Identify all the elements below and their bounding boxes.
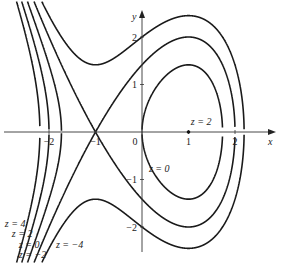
- contour-level-label: z = 2: [190, 116, 212, 127]
- axes: xy−2−101221−1−2: [4, 10, 276, 252]
- x-axis-arrow-icon: [268, 129, 276, 135]
- contour-plot-svg: xy−2−101221−1−2 z = 2z = 0z = 4z = 2z = …: [0, 0, 283, 268]
- x-axis-label: x: [267, 136, 273, 147]
- x-tick-label: 0: [133, 136, 138, 147]
- y-axis-label: y: [131, 11, 137, 22]
- x-tick-label: 1: [186, 136, 191, 147]
- y-tick-label: 2: [132, 32, 137, 43]
- x-tick-label: −1: [90, 136, 101, 147]
- contour-level-label: z = 2: [11, 228, 33, 239]
- contour-level-label: z = −2: [18, 249, 46, 260]
- y-tick-label: −2: [126, 222, 137, 233]
- y-tick-label: 1: [132, 79, 137, 90]
- y-tick-label: −1: [126, 174, 137, 185]
- x-tick-label: −2: [44, 136, 55, 147]
- y-axis-arrow-icon: [139, 10, 145, 18]
- contour-line: [22, 2, 49, 130]
- max-point-marker: [187, 130, 191, 134]
- x-tick-label: 2: [233, 136, 238, 147]
- contour-level-label: z = −4: [55, 239, 83, 250]
- contour-level-label: z = 0: [148, 163, 170, 174]
- contour-plot: xy−2−101221−1−2 z = 2z = 0z = 4z = 2z = …: [0, 0, 283, 268]
- contour-line: [42, 2, 244, 130]
